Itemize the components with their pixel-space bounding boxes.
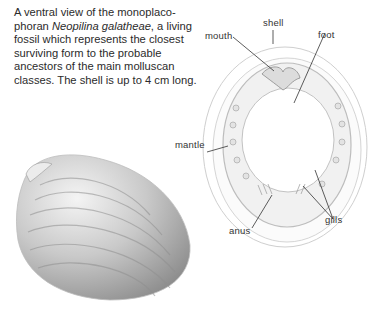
label-anus: anus [229, 225, 250, 236]
shell-illustration [16, 155, 190, 300]
illustration-canvas [0, 0, 373, 309]
label-gills: gills [325, 214, 342, 225]
label-mouth: mouth [205, 30, 232, 41]
label-shell: shell [263, 17, 284, 28]
ventral-view-illustration [203, 47, 367, 247]
label-foot: foot [318, 29, 335, 40]
label-mantle: mantle [175, 139, 205, 150]
